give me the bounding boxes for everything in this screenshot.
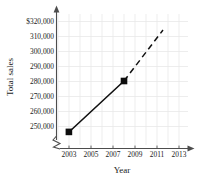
x-tick-label: 2007 [106, 150, 121, 159]
y-axis-title: Total sales [5, 57, 15, 96]
y-tick-label: 300,000 [30, 47, 54, 56]
y-tick-label: 270,000 [30, 92, 54, 101]
data-point-marker [121, 78, 128, 85]
data-point-marker [66, 129, 73, 136]
x-tick-label: 2005 [84, 150, 99, 159]
sales-line-chart: $320,000 310,000 300,000 290,000 280,000… [0, 0, 198, 179]
observed-trend-line [69, 81, 124, 132]
y-tick-label: 290,000 [30, 62, 54, 71]
y-tick-label: 250,000 [30, 122, 54, 131]
y-tick-label: 260,000 [30, 107, 54, 116]
y-axis-arrowhead [54, 6, 60, 13]
y-tick-label: 310,000 [30, 32, 54, 41]
y-tick-label: 280,000 [30, 77, 54, 86]
x-tick-label: 2013 [172, 150, 187, 159]
y-tick-label: $320,000 [26, 17, 54, 26]
x-tick-label: 2011 [150, 150, 165, 159]
x-axis-title: Year [114, 165, 131, 175]
chart-figure: $320,000 310,000 300,000 290,000 280,000… [0, 0, 198, 179]
x-tick-label: 2003 [62, 150, 77, 159]
x-axis-arrowhead [188, 146, 195, 152]
x-tick-label: 2009 [128, 150, 143, 159]
